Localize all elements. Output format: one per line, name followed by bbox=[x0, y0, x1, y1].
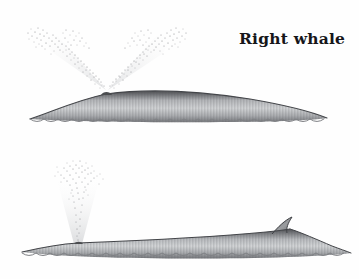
panel-right-whale: Right whale bbox=[0, 0, 359, 140]
fin-whale-illustration bbox=[0, 139, 359, 279]
right-whale-blow-left bbox=[28, 28, 107, 91]
panel-fin-whale: Fin whale bbox=[0, 139, 359, 279]
fin-whale-blow bbox=[55, 161, 104, 245]
whale-comparison-figure: Right whale bbox=[0, 0, 359, 279]
right-whale-illustration bbox=[0, 0, 359, 140]
right-whale-blow-right bbox=[108, 28, 187, 91]
species-label-right-whale: Right whale bbox=[239, 29, 345, 48]
